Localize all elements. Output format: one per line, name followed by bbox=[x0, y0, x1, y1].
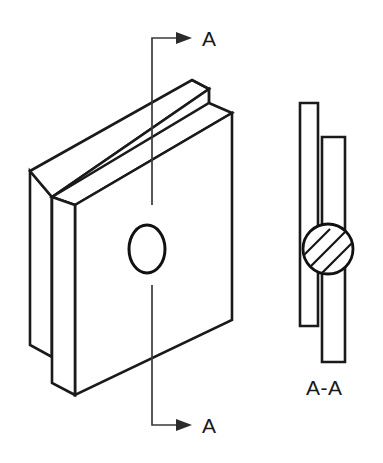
through-hole bbox=[129, 225, 165, 273]
section-arrow-label-bottom: A bbox=[202, 414, 217, 437]
technical-drawing-canvas: A A bbox=[0, 0, 383, 463]
front-plate-left-face bbox=[52, 197, 75, 395]
back-plate-left-face bbox=[30, 171, 52, 357]
section-view-title: A-A bbox=[306, 376, 343, 399]
engineering-drawing-svg: A A bbox=[0, 0, 383, 463]
section-arrow-head-bottom bbox=[176, 419, 192, 431]
section-view-a-a: A-A bbox=[294, 103, 364, 399]
section-left-plate bbox=[300, 103, 318, 326]
isometric-plate-assembly bbox=[30, 80, 232, 395]
section-arrow-head-top bbox=[176, 32, 192, 44]
section-arrow-label-top: A bbox=[202, 27, 217, 50]
